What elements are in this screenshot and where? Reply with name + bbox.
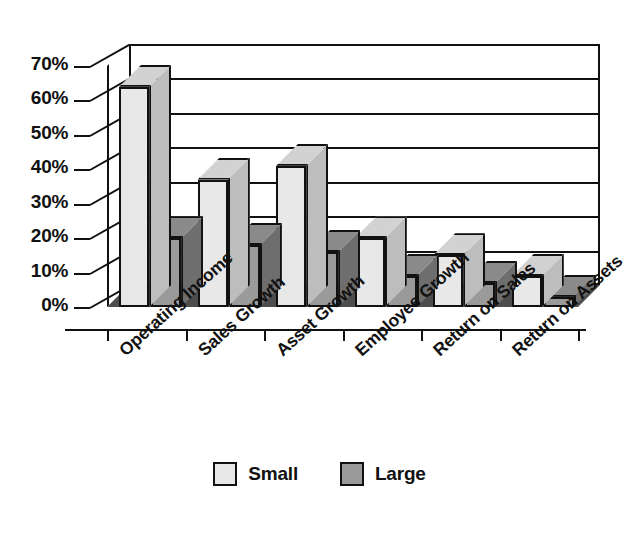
y-tick-leader-30: [74, 204, 90, 206]
bar-3-small: [355, 216, 407, 307]
x-tick-2: [264, 329, 266, 341]
legend-label-small: Small: [248, 463, 298, 485]
y-tick-leader-40: [74, 169, 90, 171]
bar-1-small-side: [228, 158, 250, 307]
legend-swatch-large: [340, 462, 364, 486]
y-axis-label-40: 40%: [6, 156, 68, 178]
chart-container: 0%10%20%30%40%50%60%70% Operating Income…: [0, 0, 639, 544]
legend-item-small[interactable]: Small: [213, 462, 298, 486]
bar-0-small: [119, 65, 171, 307]
y-tick-leader-10: [74, 273, 90, 275]
x-tick-4: [421, 329, 423, 341]
y-axis-label-0: 0%: [6, 294, 68, 316]
y-axis-label-70: 70%: [6, 53, 68, 75]
y-axis-label-10: 10%: [6, 260, 68, 282]
bar-2-small-side: [306, 144, 328, 307]
y-axis-label-50: 50%: [6, 122, 68, 144]
x-tick-0: [107, 329, 109, 341]
y-tick-leader-70: [74, 66, 90, 68]
y-tick-leader-50: [74, 135, 90, 137]
y-axis-label-30: 30%: [6, 191, 68, 213]
legend-label-large: Large: [375, 463, 426, 485]
y-tick-leader-60: [74, 100, 90, 102]
y-axis-label-20: 20%: [6, 225, 68, 247]
legend-swatch-small: [213, 462, 237, 486]
gridline-50: [129, 113, 600, 115]
bar-0-small-front: [119, 87, 149, 307]
gridline-40: [129, 147, 600, 149]
gridline-70: [129, 44, 600, 46]
x-tick-5: [500, 329, 502, 341]
y-tick-leader-20: [74, 238, 90, 240]
y-axis-label-60: 60%: [6, 87, 68, 109]
y-tick-leader-0: [74, 307, 90, 309]
bar-0-small-side: [149, 65, 171, 307]
x-tick-3: [343, 329, 345, 341]
x-tick-1: [186, 329, 188, 341]
chart-legend: SmallLarge: [0, 462, 639, 486]
gridline-60: [129, 78, 600, 80]
x-tick-6: [578, 329, 580, 341]
legend-item-large[interactable]: Large: [340, 462, 426, 486]
